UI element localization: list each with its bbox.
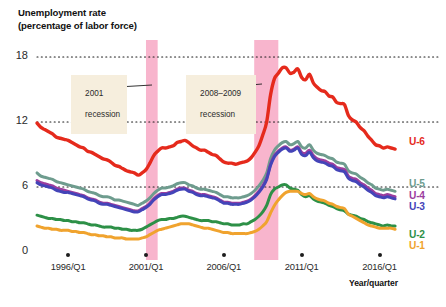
x-axis-title: Year/quarter — [349, 277, 398, 290]
x-axis-tick-label-2001-Q1: 2001/Q1 — [114, 261, 178, 272]
annotation-2001-recession: 2001 recession — [71, 75, 127, 134]
x-axis-tick-dot-2006-Q1 — [222, 253, 226, 257]
series-label-u-1: U-1 — [409, 240, 425, 251]
x-axis-tick-label-2011-Q1: 2011/Q1 — [270, 261, 334, 272]
x-axis-tick-dot-2001-Q1 — [144, 253, 148, 257]
series-label-u-3: U-3 — [409, 201, 425, 212]
x-axis-tick-dot-2011-Q1 — [300, 253, 304, 257]
chart-container: Unemployment rate (percentage of labor f… — [0, 0, 446, 307]
x-axis-tick-label-2016-Q1: 2016/Q1 — [348, 261, 412, 272]
series-label-u-2: U-2 — [409, 229, 425, 240]
annotation-2008-line1: 2008–2009 — [200, 89, 241, 98]
y-axis-tick-18: 18 — [8, 49, 28, 61]
x-axis-tick-label-2006-Q1: 2006/Q1 — [192, 261, 256, 272]
series-label-u-5: U-5 — [409, 178, 425, 189]
annotation-2001-line1: 2001 — [85, 89, 103, 98]
x-axis-tick-dot-2016-Q1 — [378, 253, 382, 257]
x-axis-tick-label-1996-Q1: 1996/Q1 — [36, 261, 100, 272]
y-axis-tick-6: 6 — [8, 179, 28, 191]
annotation-2008-2009-recession: 2008–2009 recession — [186, 75, 256, 134]
y-axis-tick-12: 12 — [8, 114, 28, 126]
series-label-u-6: U-6 — [409, 136, 425, 147]
y-axis-tick-0: 0 — [8, 244, 28, 256]
annotation-2001-line2: recession — [85, 110, 120, 119]
series-label-u-4: U-4 — [409, 190, 425, 201]
annotation-2008-line2: recession — [200, 110, 235, 119]
